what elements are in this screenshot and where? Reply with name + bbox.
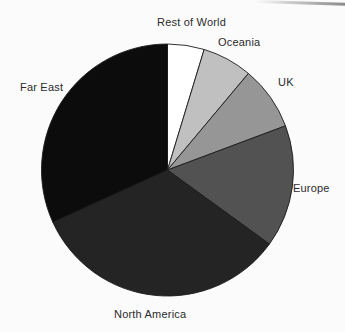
slice-label-europe: Europe bbox=[293, 182, 330, 194]
slice-label-oceania: Oceania bbox=[218, 36, 260, 48]
slice-label-far-east: Far East bbox=[20, 81, 63, 93]
slice-label-rest-of-world: Rest of World bbox=[157, 16, 226, 28]
pie-chart-figure: Rest of World Oceania UK Europe North Am… bbox=[0, 0, 345, 332]
pie-chart bbox=[0, 0, 345, 332]
slice-label-north-america: North America bbox=[114, 308, 186, 320]
slice-label-uk: UK bbox=[278, 76, 294, 88]
